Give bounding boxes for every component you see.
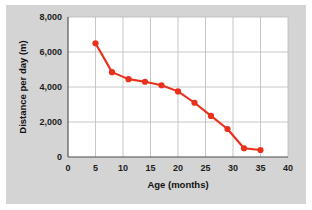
x-axis-tick-label: 0	[65, 163, 70, 173]
y-axis-title: Distance per day (m)	[17, 40, 28, 133]
y-axis-tick-label: 4,000	[39, 82, 62, 92]
chart-figure: 02,0004,0006,0008,0000510152025303540Age…	[0, 0, 312, 210]
x-axis-tick-label: 40	[283, 163, 293, 173]
data-point-marker	[257, 147, 263, 153]
x-axis-tick-label: 20	[173, 163, 183, 173]
x-axis-tick-label: 5	[93, 163, 98, 173]
x-axis-tick-label: 10	[118, 163, 128, 173]
data-point-marker	[191, 100, 197, 106]
data-point-marker	[92, 40, 98, 46]
data-point-marker	[224, 126, 230, 132]
y-axis-tick-label: 0	[57, 152, 62, 162]
chart-plate: 02,0004,0006,0008,0000510152025303540Age…	[6, 5, 306, 204]
x-axis-tick-label: 30	[228, 163, 238, 173]
data-point-marker	[208, 113, 214, 119]
data-point-marker	[125, 76, 131, 82]
x-axis-tick-label: 35	[255, 163, 265, 173]
x-axis-tick-label: 15	[145, 163, 155, 173]
y-axis-tick-label: 6,000	[39, 47, 62, 57]
data-point-marker	[158, 82, 164, 88]
x-axis-title: Age (months)	[147, 179, 208, 190]
data-point-marker	[241, 145, 247, 151]
x-axis-tick-label: 25	[200, 163, 210, 173]
data-point-marker	[175, 88, 181, 94]
line-chart: 02,0004,0006,0008,0000510152025303540Age…	[6, 5, 306, 204]
data-point-marker	[142, 79, 148, 85]
data-point-marker	[109, 69, 115, 75]
y-axis-tick-label: 2,000	[39, 117, 62, 127]
y-axis-tick-label: 8,000	[39, 12, 62, 22]
